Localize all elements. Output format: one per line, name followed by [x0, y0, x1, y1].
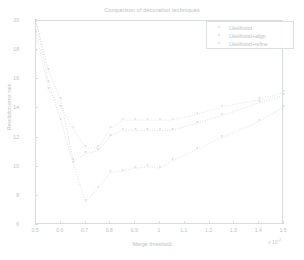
y-tick-label: 18: [0, 46, 19, 52]
x-tick-mark: [184, 221, 185, 224]
y-tick-mark: [35, 137, 38, 138]
x-tick-label: 1.4: [255, 227, 262, 233]
x-tick-mark: [134, 221, 135, 224]
y-tick-mark: [35, 107, 38, 108]
legend-label: Likelihood: [227, 25, 252, 31]
y-tick-mark: [35, 49, 38, 50]
y-tick-label: 16: [0, 75, 19, 81]
x-tick-label: 0.8: [106, 227, 113, 233]
y-tick-label: 8: [0, 192, 19, 198]
x-tick-mark: [85, 221, 86, 224]
y-tick-mark: [35, 20, 38, 21]
y-axis-label: Resolution error rate: [6, 84, 12, 130]
y-tick-mark: [35, 195, 38, 196]
x-tick-mark: [283, 221, 284, 224]
legend: *Likelihood*Likelihood+align*Likelihood+…: [206, 21, 294, 49]
legend-label: Likelihood+align: [227, 33, 266, 39]
x-tick-label: 1.3: [230, 227, 237, 233]
x-tick-label: 0.5: [31, 227, 38, 233]
x-tick-mark: [258, 221, 259, 224]
x-tick-mark: [60, 221, 61, 224]
legend-item-0: *Likelihood: [207, 24, 293, 32]
x-tick-label: 1.5: [279, 227, 286, 233]
x-tick-label: 1: [158, 227, 161, 233]
legend-label: Likelihood+refine: [227, 41, 268, 47]
x-tick-label: 1.2: [205, 227, 212, 233]
y-tick-label: 20: [0, 17, 19, 23]
x-axis-exponent: x 10-2: [268, 238, 281, 245]
x-tick-label: 0.7: [81, 227, 88, 233]
x-axis-label: Merge threshold: [0, 241, 304, 247]
y-tick-mark: [35, 166, 38, 167]
y-tick-label: 12: [0, 134, 19, 140]
figure: Comparison of decoration techniques ****…: [0, 0, 304, 260]
y-tick-label: 6: [0, 221, 19, 227]
x-tick-mark: [159, 221, 160, 224]
y-tick-mark: [35, 224, 38, 225]
y-tick-label: 10: [0, 163, 19, 169]
x-tick-mark: [35, 221, 36, 224]
legend-marker-icon: *: [211, 25, 227, 31]
x-exponent-power: -2: [278, 238, 281, 242]
x-exponent-base: x 10: [268, 239, 278, 245]
legend-item-1: *Likelihood+align: [207, 32, 293, 40]
x-tick-label: 0.6: [56, 227, 63, 233]
x-tick-mark: [109, 221, 110, 224]
y-tick-mark: [35, 78, 38, 79]
legend-marker-icon: *: [211, 41, 227, 47]
legend-marker-icon: *: [211, 33, 227, 39]
x-tick-label: 0.9: [131, 227, 138, 233]
x-tick-label: 1.1: [180, 227, 187, 233]
x-tick-mark: [233, 221, 234, 224]
x-tick-mark: [209, 221, 210, 224]
legend-item-2: *Likelihood+refine: [207, 40, 293, 48]
